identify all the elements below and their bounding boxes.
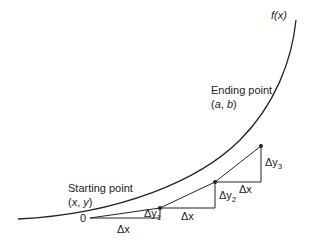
function-curve [18, 20, 296, 219]
point-3 [259, 144, 263, 148]
dx-label-1: Δx [117, 223, 130, 235]
dx-label-3: Δx [239, 183, 252, 195]
starting-point-coords: (x, y) [68, 196, 92, 208]
curve-label: f(x) [271, 9, 287, 21]
arc-length-diagram: f(x) 0 Starting point (x, y) Ending poin… [0, 0, 310, 243]
dy-label-3: Δy3 [265, 156, 283, 171]
ending-point-coords: (a, b) [211, 98, 237, 110]
dx-label-2: Δx [181, 210, 194, 222]
dy-label-2: Δy2 [219, 189, 237, 204]
origin-label: 0 [80, 212, 86, 224]
point-2 [213, 180, 217, 184]
point-1 [158, 206, 162, 210]
starting-point-title: Starting point [68, 182, 133, 194]
ending-point-title: Ending point [211, 84, 272, 96]
